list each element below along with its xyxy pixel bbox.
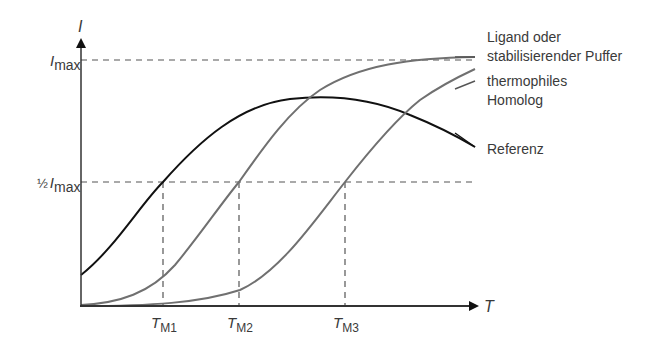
thermo-leader-line xyxy=(455,81,475,89)
legend-ligand-line2: stabilisierender Puffer xyxy=(487,48,622,64)
referenz-leader-line xyxy=(455,133,475,147)
half-imax-label: ½Imax xyxy=(37,174,80,195)
tm3-label: TM3 xyxy=(333,314,359,335)
referenz-curve xyxy=(81,97,475,275)
legend-thermo-line1: thermophiles xyxy=(487,73,567,89)
y-axis-arrow-icon xyxy=(76,38,86,48)
y-axis-label: I xyxy=(78,18,83,35)
x-axis-label: T xyxy=(484,298,495,315)
thermal-shift-diagram: I T Imax ½Imax TM1 TM2 TM3 Ligand oder s… xyxy=(0,0,669,340)
legend-ligand-line1: Ligand oder xyxy=(487,29,561,45)
imax-label: Imax xyxy=(50,52,81,73)
tm1-label: TM1 xyxy=(151,314,177,335)
tm2-label: TM2 xyxy=(227,314,253,335)
legend-referenz: Referenz xyxy=(487,141,544,157)
thermophiles-curve xyxy=(81,69,475,306)
legend-thermo-line2: Homolog xyxy=(487,92,543,108)
x-axis-arrow-icon xyxy=(469,301,479,311)
ligand-curve xyxy=(81,57,475,305)
